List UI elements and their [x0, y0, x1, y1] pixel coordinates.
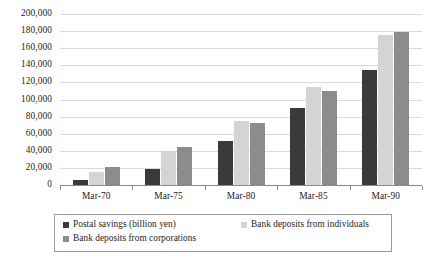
x-axis-tick-labels: Mar-70Mar-75Mar-80Mar-85Mar-90	[60, 192, 422, 201]
x-axis-tick-label: Mar-70	[60, 192, 132, 201]
plot-area	[60, 14, 422, 186]
bar-groups	[60, 14, 422, 185]
y-axis-tick-label: 120,000	[21, 78, 52, 87]
legend-entry-postal-savings: Postal savings (billion yen)	[63, 220, 241, 229]
legend-entry-bank-deposits-individuals: Bank deposits from individuals	[241, 220, 369, 229]
y-axis-tick-label: 180,000	[21, 26, 52, 35]
bar	[161, 151, 176, 185]
bar	[362, 70, 377, 185]
y-axis-tick-label: 60,000	[26, 129, 52, 138]
x-axis-tick	[60, 186, 61, 190]
y-axis-tick-label: 0	[47, 180, 52, 189]
bar	[378, 35, 393, 185]
bar-group	[350, 14, 422, 185]
legend-swatch-bank-deposits-individuals	[241, 222, 247, 228]
x-axis-tick	[277, 186, 278, 190]
x-axis-tick-label: Mar-80	[205, 192, 277, 201]
y-axis-tick-label: 40,000	[26, 146, 52, 155]
x-axis-tick-label: Mar-75	[132, 192, 204, 201]
bar	[105, 167, 120, 185]
y-axis-tick-label: 100,000	[21, 95, 52, 104]
legend-swatch-postal-savings	[63, 222, 69, 228]
bar	[145, 169, 160, 185]
bar	[177, 147, 192, 185]
x-axis-tick	[350, 186, 351, 190]
y-axis-tick-label: 20,000	[26, 163, 52, 172]
bar-group	[132, 14, 204, 185]
legend-entry-bank-deposits-corporations: Bank deposits from corporations	[63, 234, 241, 243]
y-axis-tick-label: 80,000	[26, 112, 52, 121]
bar-group	[205, 14, 277, 185]
bar-group	[277, 14, 349, 185]
y-axis-tick-labels: 200,000180,000160,000140,000120,000100,0…	[0, 14, 56, 186]
legend-row-2: Bank deposits from corporations	[55, 234, 391, 248]
y-axis-tick-label: 200,000	[21, 9, 52, 18]
legend-swatch-bank-deposits-corporations	[63, 236, 69, 242]
legend-label-postal-savings: Postal savings (billion yen)	[73, 220, 176, 229]
chart-legend: Postal savings (billion yen) Bank deposi…	[54, 214, 392, 252]
bar	[218, 141, 233, 185]
figure-bar-chart: 200,000180,000160,000140,000120,000100,0…	[0, 0, 430, 268]
x-axis-tick	[205, 186, 206, 190]
legend-label-bank-deposits-corporations: Bank deposits from corporations	[73, 234, 196, 243]
x-axis-tick-label: Mar-85	[277, 192, 349, 201]
bar-group	[60, 14, 132, 185]
bar	[322, 91, 337, 185]
legend-label-bank-deposits-individuals: Bank deposits from individuals	[251, 220, 369, 229]
bar	[73, 180, 88, 185]
y-axis-tick-label: 160,000	[21, 44, 52, 53]
bar	[250, 123, 265, 185]
bar	[290, 108, 305, 185]
bar	[394, 32, 409, 185]
chart-area: 200,000180,000160,000140,000120,000100,0…	[0, 14, 430, 196]
bar	[89, 172, 104, 185]
y-axis-tick-label: 140,000	[21, 61, 52, 70]
x-axis-tick-label: Mar-90	[350, 192, 422, 201]
x-axis-tick	[422, 186, 423, 190]
bar	[234, 121, 249, 185]
x-axis-tick	[132, 186, 133, 190]
bar	[306, 87, 321, 185]
legend-row-1: Postal savings (billion yen) Bank deposi…	[55, 220, 391, 234]
